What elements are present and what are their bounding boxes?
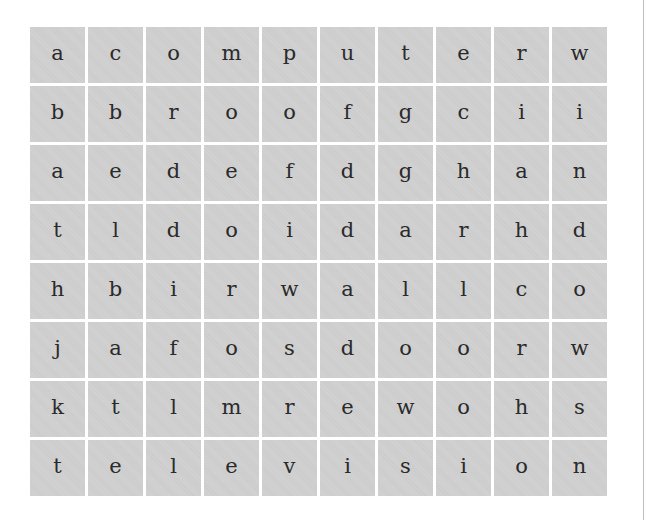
letter-cell-r4-c3[interactable]: d	[146, 204, 201, 260]
letter-cell-r8-c6[interactable]: i	[320, 440, 375, 496]
letter-cell-r8-c10[interactable]: n	[552, 440, 607, 496]
letter-cell-r4-c10[interactable]: d	[552, 204, 607, 260]
letter-cell-r2-c7[interactable]: g	[378, 86, 433, 142]
letter-cell-r5-c2[interactable]: b	[88, 263, 143, 319]
letter-cell-r5-c3[interactable]: i	[146, 263, 201, 319]
letter-cell-r4-c9[interactable]: h	[494, 204, 549, 260]
letter-cell-r5-c7[interactable]: l	[378, 263, 433, 319]
letter-cell-r2-c5[interactable]: o	[262, 86, 317, 142]
letter-cell-r8-c5[interactable]: v	[262, 440, 317, 496]
letter-cell-r7-c2[interactable]: t	[88, 381, 143, 437]
letter-cell-r6-c3[interactable]: f	[146, 322, 201, 378]
letter-cell-r1-c2[interactable]: c	[88, 27, 143, 83]
letter-cell-r1-c9[interactable]: r	[494, 27, 549, 83]
letter-cell-r2-c1[interactable]: b	[30, 86, 85, 142]
letter-cell-r8-c7[interactable]: s	[378, 440, 433, 496]
letter-cell-r5-c8[interactable]: l	[436, 263, 491, 319]
letter-cell-r6-c4[interactable]: o	[204, 322, 259, 378]
letter-cell-r7-c5[interactable]: r	[262, 381, 317, 437]
letter-cell-r1-c8[interactable]: e	[436, 27, 491, 83]
letter-cell-r5-c9[interactable]: c	[494, 263, 549, 319]
letter-cell-r3-c7[interactable]: g	[378, 145, 433, 201]
letter-cell-r8-c8[interactable]: i	[436, 440, 491, 496]
letter-cell-r7-c9[interactable]: h	[494, 381, 549, 437]
letter-cell-r7-c6[interactable]: e	[320, 381, 375, 437]
letter-cell-r6-c1[interactable]: j	[30, 322, 85, 378]
letter-cell-r3-c6[interactable]: d	[320, 145, 375, 201]
letter-cell-r4-c6[interactable]: d	[320, 204, 375, 260]
letter-cell-r8-c9[interactable]: o	[494, 440, 549, 496]
letter-cell-r2-c10[interactable]: i	[552, 86, 607, 142]
letter-cell-r3-c2[interactable]: e	[88, 145, 143, 201]
letter-cell-r2-c2[interactable]: b	[88, 86, 143, 142]
letter-cell-r3-c9[interactable]: a	[494, 145, 549, 201]
letter-cell-r7-c3[interactable]: l	[146, 381, 201, 437]
letter-cell-r3-c8[interactable]: h	[436, 145, 491, 201]
letter-cell-r5-c5[interactable]: w	[262, 263, 317, 319]
letter-cell-r7-c8[interactable]: o	[436, 381, 491, 437]
letter-cell-r8-c3[interactable]: l	[146, 440, 201, 496]
letter-cell-r6-c9[interactable]: r	[494, 322, 549, 378]
letter-cell-r4-c7[interactable]: a	[378, 204, 433, 260]
letter-cell-r7-c4[interactable]: m	[204, 381, 259, 437]
letter-cell-r4-c2[interactable]: l	[88, 204, 143, 260]
letter-cell-r3-c4[interactable]: e	[204, 145, 259, 201]
letter-cell-r6-c7[interactable]: o	[378, 322, 433, 378]
letter-cell-r1-c4[interactable]: m	[204, 27, 259, 83]
word-search-grid: acomputerwbbroofgciiaedefdghantldoidarhd…	[30, 27, 607, 496]
letter-cell-r6-c10[interactable]: w	[552, 322, 607, 378]
letter-cell-r5-c4[interactable]: r	[204, 263, 259, 319]
letter-cell-r1-c3[interactable]: o	[146, 27, 201, 83]
letter-cell-r2-c9[interactable]: i	[494, 86, 549, 142]
worksheet-page: acomputerwbbroofgciiaedefdghantldoidarhd…	[0, 0, 652, 523]
letter-cell-r3-c10[interactable]: n	[552, 145, 607, 201]
letter-cell-r8-c4[interactable]: e	[204, 440, 259, 496]
letter-cell-r1-c1[interactable]: a	[30, 27, 85, 83]
page-edge-divider	[643, 0, 644, 520]
letter-cell-r6-c5[interactable]: s	[262, 322, 317, 378]
letter-cell-r4-c4[interactable]: o	[204, 204, 259, 260]
letter-cell-r3-c3[interactable]: d	[146, 145, 201, 201]
letter-cell-r1-c7[interactable]: t	[378, 27, 433, 83]
letter-cell-r7-c7[interactable]: w	[378, 381, 433, 437]
letter-cell-r7-c10[interactable]: s	[552, 381, 607, 437]
letter-cell-r2-c8[interactable]: c	[436, 86, 491, 142]
letter-cell-r4-c5[interactable]: i	[262, 204, 317, 260]
letter-cell-r4-c1[interactable]: t	[30, 204, 85, 260]
letter-cell-r3-c5[interactable]: f	[262, 145, 317, 201]
letter-cell-r7-c1[interactable]: k	[30, 381, 85, 437]
letter-cell-r1-c6[interactable]: u	[320, 27, 375, 83]
letter-cell-r2-c6[interactable]: f	[320, 86, 375, 142]
letter-cell-r2-c3[interactable]: r	[146, 86, 201, 142]
letter-cell-r3-c1[interactable]: a	[30, 145, 85, 201]
letter-cell-r1-c10[interactable]: w	[552, 27, 607, 83]
letter-cell-r2-c4[interactable]: o	[204, 86, 259, 142]
letter-cell-r5-c10[interactable]: o	[552, 263, 607, 319]
letter-cell-r1-c5[interactable]: p	[262, 27, 317, 83]
letter-cell-r5-c1[interactable]: h	[30, 263, 85, 319]
letter-cell-r6-c6[interactable]: d	[320, 322, 375, 378]
letter-cell-r6-c8[interactable]: o	[436, 322, 491, 378]
letter-cell-r4-c8[interactable]: r	[436, 204, 491, 260]
letter-cell-r8-c1[interactable]: t	[30, 440, 85, 496]
letter-cell-r6-c2[interactable]: a	[88, 322, 143, 378]
letter-cell-r8-c2[interactable]: e	[88, 440, 143, 496]
letter-cell-r5-c6[interactable]: a	[320, 263, 375, 319]
